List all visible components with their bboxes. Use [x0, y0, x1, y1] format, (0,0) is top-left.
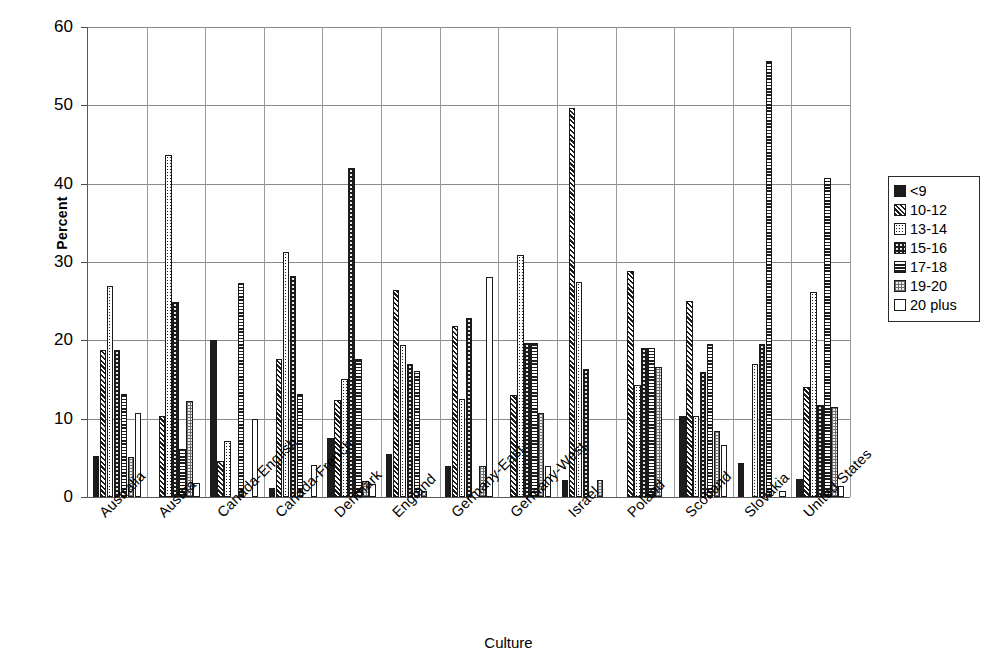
bar: [393, 290, 399, 497]
bar: [679, 416, 685, 497]
bar-chart: Percent 0102030405060 AustraliaAustriaCa…: [0, 0, 987, 664]
bar: [810, 292, 816, 497]
bar: [445, 466, 451, 497]
bar: [100, 350, 106, 497]
bar: [466, 318, 472, 497]
bar: [407, 364, 413, 497]
bar: [531, 343, 537, 497]
legend-label: 20 plus: [910, 298, 957, 313]
bar: [569, 108, 575, 497]
bar-group: [498, 27, 557, 497]
x-group-separator: [850, 27, 851, 497]
bar-group: [264, 27, 323, 497]
legend-item: 20 plus: [894, 296, 975, 314]
bar: [290, 276, 296, 497]
bar-group: [674, 27, 733, 497]
bar: [648, 348, 654, 497]
bar: [738, 463, 744, 497]
bar: [627, 271, 633, 497]
bar: [693, 416, 699, 497]
bar-group: [322, 27, 381, 497]
bar: [641, 348, 647, 497]
y-tick-label: 50: [33, 96, 73, 113]
y-tick-label: 0: [33, 488, 73, 505]
bar: [576, 282, 582, 497]
legend: <910-1213-1415-1617-1819-2020 plus: [888, 176, 980, 322]
bar-group: [205, 27, 264, 497]
bar: [824, 178, 830, 497]
legend-swatch-icon: [894, 242, 906, 254]
bar-group: [147, 27, 206, 497]
bar: [400, 345, 406, 497]
bar: [707, 344, 713, 497]
legend-item: 17-18: [894, 258, 975, 276]
bar: [93, 456, 99, 497]
bar-group: [381, 27, 440, 497]
bar: [634, 385, 640, 497]
bar: [172, 302, 178, 497]
bar: [159, 416, 165, 497]
bar: [224, 441, 230, 497]
x-axis-title-text: Culture: [484, 634, 532, 651]
bar: [452, 326, 458, 497]
bar: [210, 340, 216, 497]
legend-swatch-icon: [894, 204, 906, 216]
legend-label: 10-12: [910, 203, 947, 218]
bar: [238, 283, 244, 497]
bar: [752, 364, 758, 497]
legend-label: 15-16: [910, 241, 947, 256]
legend-item: <9: [894, 182, 975, 200]
bar-group: [791, 27, 850, 497]
bar: [817, 405, 823, 497]
bar-group: [88, 27, 147, 497]
bar: [700, 372, 706, 497]
y-tick-label: 20: [33, 331, 73, 348]
y-tick-label: 40: [33, 175, 73, 192]
y-tick-label: 60: [33, 18, 73, 35]
bar: [459, 399, 465, 497]
bar: [114, 350, 120, 497]
legend-swatch-icon: [894, 261, 906, 273]
bar: [217, 461, 223, 497]
bar-group: [616, 27, 675, 497]
bar-group: [440, 27, 499, 497]
bar: [766, 61, 772, 497]
bar: [759, 344, 765, 497]
bar: [524, 343, 530, 497]
legend-swatch-icon: [894, 223, 906, 235]
bar: [269, 488, 275, 497]
bar: [796, 479, 802, 497]
legend-swatch-icon: [894, 185, 906, 197]
bar-group: [733, 27, 792, 497]
bar: [107, 286, 113, 497]
legend-item: 10-12: [894, 201, 975, 219]
bar-group: [557, 27, 616, 497]
bar: [686, 301, 692, 497]
bar: [803, 387, 809, 497]
legend-label: <9: [910, 184, 927, 199]
legend-item: 13-14: [894, 220, 975, 238]
legend-item: 15-16: [894, 239, 975, 257]
bar: [583, 369, 589, 497]
legend-swatch-icon: [894, 280, 906, 292]
x-axis-title: Culture: [0, 634, 987, 651]
plot-area: [87, 27, 850, 498]
bar: [562, 480, 568, 497]
legend-item: 19-20: [894, 277, 975, 295]
legend-label: 19-20: [910, 279, 947, 294]
legend-swatch-icon: [894, 299, 906, 311]
bar: [276, 359, 282, 497]
y-tick-label: 30: [33, 253, 73, 270]
bar: [165, 155, 171, 497]
legend-label: 17-18: [910, 260, 947, 275]
legend-label: 13-14: [910, 222, 947, 237]
y-tick-label: 10: [33, 410, 73, 427]
bar: [355, 359, 361, 497]
bar: [386, 454, 392, 497]
